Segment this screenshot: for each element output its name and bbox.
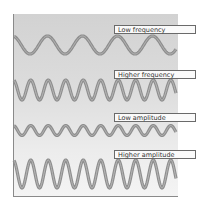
label-higher-frequency: Higher frequency [114,70,196,79]
label-low-amplitude: Low amplitude [114,113,196,122]
label-low-frequency: Low frequency [114,25,196,34]
label-higher-amplitude: Higher amplitude [114,150,196,159]
wave-low-amplitude [14,126,176,136]
wave-higher-frequency [14,80,176,100]
wave-highlight-low-frequency [14,36,176,54]
wave-higher-amplitude [14,160,176,188]
